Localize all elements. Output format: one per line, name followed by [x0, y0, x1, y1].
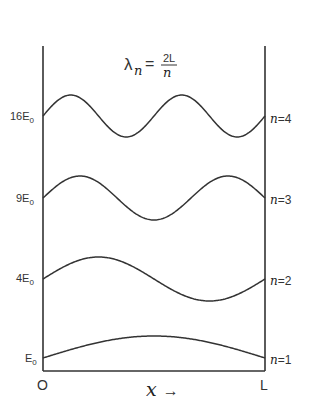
energy-label-n4: 16E0 [10, 110, 35, 125]
state-label-n4: n=4 [270, 112, 292, 126]
energy-labels: 16E0 9E0 4E0 E0 [10, 110, 37, 367]
state-label-n2: n=2 [270, 274, 292, 288]
wave-n3 [43, 176, 265, 220]
particle-in-box-diagram: λ n = 2L n 16E0 9E0 4E0 E0 n=4 n=3 n=2 n… [0, 0, 315, 410]
wavelength-formula: λ n = 2L n [124, 52, 177, 80]
length-label: L [260, 377, 268, 393]
formula-denominator: n [163, 65, 171, 80]
state-label-n1: n=1 [270, 353, 292, 367]
origin-label: O [37, 377, 48, 393]
x-axis-label: x→ [146, 378, 179, 400]
lambda-symbol: λ [124, 55, 133, 74]
quantum-number-labels: n=4 n=3 n=2 n=1 [270, 112, 292, 367]
state-label-n3: n=3 [270, 193, 292, 207]
energy-label-n1: E0 [25, 352, 37, 367]
energy-label-n3: 9E0 [16, 192, 34, 207]
energy-label-n2: 4E0 [16, 272, 34, 287]
wave-n2 [43, 257, 265, 301]
lambda-subscript: n [134, 63, 142, 78]
formula-numerator: 2L [163, 52, 175, 64]
standing-waves [43, 95, 265, 358]
wave-n4 [43, 95, 265, 137]
wave-n1 [43, 336, 265, 358]
equals-sign: = [145, 55, 154, 72]
